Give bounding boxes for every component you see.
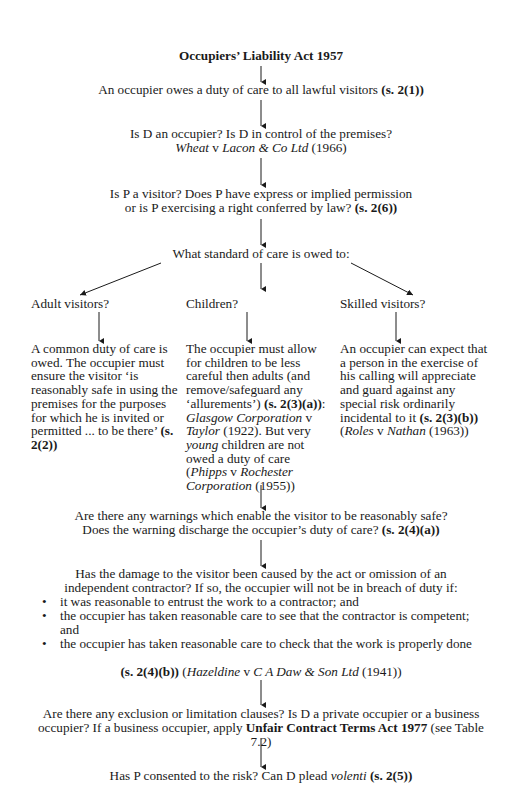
- diagram-title: Occupiers’ Liability Act 1957: [0, 49, 512, 63]
- branch-label-children: Children?: [186, 297, 238, 311]
- act-name: Unfair Contract Terms Act 1977: [246, 720, 427, 735]
- node-consent: Has P consented to the risk? Can D plead…: [0, 769, 512, 783]
- arrow-standard-to-adult: [80, 263, 161, 295]
- bullet-icon: •: [42, 609, 47, 623]
- node-warnings-line1: Are there any warnings which enable the …: [0, 509, 512, 523]
- branch-body-adult: A common duty of care is owed. The occup…: [31, 342, 181, 452]
- bullet-icon: •: [42, 637, 47, 651]
- node-contractor: Has the damage to the visitor been cause…: [0, 567, 512, 596]
- branch-label-skilled: Skilled visitors?: [340, 297, 425, 311]
- node-visitor-line1: Is P a visitor? Does P have express or i…: [0, 187, 512, 201]
- node-warnings-line2: Does the warning discharge the occupier’…: [0, 523, 512, 537]
- node-duty-text: An occupier owes a duty of care to all l…: [98, 82, 381, 97]
- arrow-standard-to-skilled: [351, 263, 413, 295]
- node-standard: What standard of care is owed to:: [0, 247, 512, 261]
- node-contractor-line1: Has the damage to the visitor been cause…: [0, 567, 512, 581]
- section-ref: (s. 2(1)): [381, 82, 423, 97]
- branch-body-children: The occupier must allow for children to …: [186, 342, 328, 493]
- node-warnings: Are there any warnings which enable the …: [0, 509, 512, 538]
- section-ref: (s. 2(6)): [355, 200, 397, 215]
- section-ref: (s. 2(5)): [367, 768, 413, 783]
- node-exclusion: Are there any exclusion or limitation cl…: [30, 707, 492, 749]
- contractor-bullet-2: •the occupier has taken reasonable care …: [60, 609, 490, 637]
- section-ref: (s. 2(4)(b)): [120, 664, 179, 679]
- bullet-icon: •: [42, 595, 47, 609]
- node-visitor: Is P a visitor? Does P have express or i…: [0, 187, 512, 216]
- case-citation: Wheat v Lacon & Co Ltd (1966): [0, 141, 512, 155]
- section-ref: (s. 2(4)(a)): [382, 522, 440, 537]
- branch-body-skilled: An occupier can expect that a person in …: [340, 342, 488, 438]
- node-visitor-line2: or is P exercising a right conferred by …: [0, 201, 512, 215]
- node-duty: An occupier owes a duty of care to all l…: [0, 83, 512, 97]
- node-occupier-question: Is D an occupier? Is D in control of the…: [0, 127, 512, 141]
- node-occupier: Is D an occupier? Is D in control of the…: [0, 127, 512, 156]
- contractor-bullet-3: •the occupier has taken reasonable care …: [60, 637, 490, 651]
- contractor-citation: (s. 2(4)(b)) (Hazeldine v C A Daw & Son …: [0, 665, 512, 679]
- branch-label-adult: Adult visitors?: [31, 297, 109, 311]
- contractor-bullet-1: •it was reasonable to entrust the work t…: [60, 595, 490, 609]
